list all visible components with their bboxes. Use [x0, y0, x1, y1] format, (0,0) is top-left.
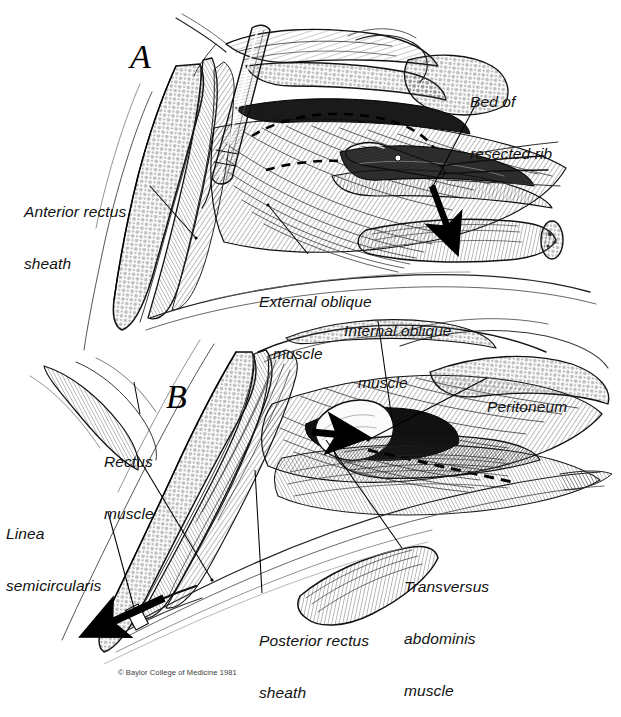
copyright-notice: © Baylor College of Medicine 1981: [118, 668, 237, 677]
label-bed-of-resected-rib: Bed of resected rib: [470, 58, 552, 180]
panel-letter-a: A: [130, 38, 151, 76]
rib-cut-end: [541, 221, 563, 259]
label-transversus-abdominis-muscle: Transversus abdominis muscle: [404, 543, 489, 717]
label-internal-oblique-muscle: Internal oblique muscle: [344, 287, 452, 409]
label-anterior-rectus-sheath: Anterior rectus sheath: [24, 168, 126, 290]
label-rectus-muscle: Rectus muscle: [104, 418, 154, 540]
label-posterior-rectus-sheath: Posterior rectus sheath: [259, 597, 369, 717]
peritoneum-entry-arrow: [312, 432, 364, 437]
panel-letter-b: B: [166, 378, 187, 416]
label-linea-semicircularis: Linea semicircularis: [6, 490, 101, 612]
label-peritoneum: Peritoneum: [487, 363, 567, 432]
